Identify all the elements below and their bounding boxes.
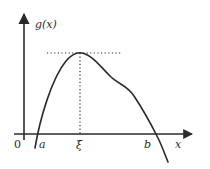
- x-axis-label: x: [175, 138, 182, 151]
- point-xi-label: ξ: [76, 139, 83, 152]
- point-a-label: a: [39, 138, 46, 151]
- y-axis-label: g(x): [35, 18, 57, 31]
- function-graph: g(x) x 0 a ξ b: [0, 0, 210, 169]
- origin-label: 0: [14, 138, 21, 151]
- point-b-label: b: [144, 138, 151, 151]
